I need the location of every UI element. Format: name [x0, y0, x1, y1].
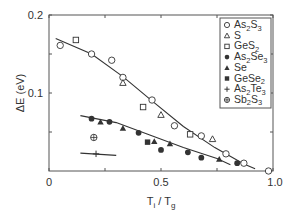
- open-circle-marker-icon: [88, 51, 94, 57]
- open-circle-marker-icon: [57, 42, 63, 48]
- open-circle-marker-icon: [198, 133, 204, 139]
- filled-circle-marker-icon: [198, 155, 204, 161]
- y-axis-label: ΔE (eV): [14, 74, 26, 113]
- open-square-marker-icon: [140, 104, 145, 109]
- open-circle-marker-icon: [109, 57, 115, 63]
- legend: As2S3SGeS2As2Se3SeGeSe2As2Te3Sb2S3: [220, 18, 271, 108]
- open-square-marker-icon: [73, 37, 78, 42]
- open-circle-marker-icon: [224, 22, 229, 27]
- x-axis-label: Ti / Tg: [147, 195, 176, 210]
- open-circle-marker-icon: [171, 123, 177, 129]
- series-As2Te3: [93, 151, 99, 157]
- filled-triangle-marker-icon: [151, 138, 157, 144]
- filled-circle-marker-icon: [234, 160, 240, 166]
- y-tick-label-0.2: 0.2: [28, 9, 43, 21]
- open-square-marker-icon: [187, 132, 192, 137]
- open-circle-marker-icon: [223, 151, 229, 157]
- y-tick-label-0.1: 0.1: [28, 87, 43, 99]
- filled-circle-marker-icon: [107, 119, 113, 125]
- filled-square-marker-icon: [225, 76, 229, 80]
- filled-circle-marker-icon: [158, 147, 164, 153]
- filled-circle-marker-icon: [185, 149, 191, 155]
- series-GeSe2: [145, 139, 150, 144]
- open-triangle-marker-icon: [158, 112, 164, 118]
- open-square-marker-icon: [225, 44, 229, 48]
- open-circle-marker-icon: [265, 168, 271, 174]
- filled-circle-marker-icon: [89, 116, 95, 122]
- series-Sb2S3: [91, 134, 97, 140]
- open-triangle-marker-icon: [209, 136, 215, 142]
- filled-square-marker-icon: [145, 139, 150, 144]
- filled-circle-marker-icon: [136, 130, 142, 136]
- chart: 0.2 0.1 0 0.5 1.0 ΔE (eV) Ti / Tg As2S3S…: [0, 0, 295, 215]
- open-triangle-marker-icon: [120, 80, 126, 86]
- x-tick-label-0.5: 0.5: [153, 176, 168, 188]
- open-circle-marker-icon: [149, 97, 155, 103]
- x-tick-label-1.0: 1.0: [267, 176, 282, 188]
- x-tick-label-0: 0: [46, 176, 52, 188]
- open-circle-marker-icon: [241, 160, 247, 166]
- filled-circle-marker-icon: [225, 55, 230, 60]
